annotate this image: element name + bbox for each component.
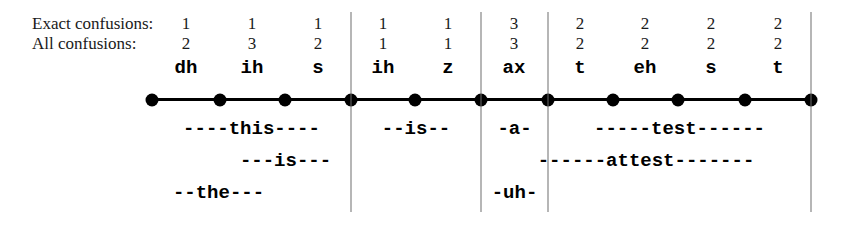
- hypothesis-span: -uh-: [481, 182, 548, 204]
- all-count: 2: [576, 34, 585, 54]
- axis-node: [739, 93, 752, 106]
- all-count: 2: [641, 34, 650, 54]
- hypothesis-row-3: --the----uh-: [0, 182, 848, 206]
- hypothesis-span: --is--: [351, 118, 481, 140]
- exact-count: 3: [510, 14, 519, 34]
- exact-count: 2: [641, 14, 650, 34]
- axis-node: [279, 93, 292, 106]
- phoneme-label: t: [574, 57, 585, 79]
- phoneme-label: z: [442, 57, 453, 79]
- axis-node: [672, 93, 685, 106]
- exact-count: 1: [182, 14, 191, 34]
- axis-node: [607, 93, 620, 106]
- phoneme-label: ih: [372, 57, 395, 79]
- axis-node: [409, 93, 422, 106]
- hypothesis-row-1: ----this------is---a------test------: [0, 118, 848, 142]
- all-count: 2: [182, 34, 191, 54]
- all-count: 2: [774, 34, 783, 54]
- phoneme-label: ax: [503, 57, 526, 79]
- exact-count: 2: [707, 14, 716, 34]
- hypothesis-span: ---is---: [220, 150, 351, 172]
- hypothesis-span: -a-: [481, 118, 548, 140]
- all-confusions-label: All confusions:: [32, 34, 136, 54]
- exact-count: 1: [379, 14, 388, 34]
- axis-node: [214, 93, 227, 106]
- exact-count: 2: [774, 14, 783, 34]
- all-count: 2: [314, 34, 323, 54]
- phoneme-label: dh: [175, 57, 198, 79]
- exact-count: 1: [248, 14, 257, 34]
- hypothesis-row-2: ---is---------attest-------: [0, 150, 848, 174]
- hypothesis-span: -----test------: [548, 118, 811, 140]
- all-count: 1: [379, 34, 388, 54]
- exact-count: 1: [314, 14, 323, 34]
- hypothesis-span: ----this----: [152, 118, 351, 140]
- phoneme-alignment-figure: Exact confusions: All confusions: 111113…: [0, 0, 848, 232]
- exact-count: 2: [576, 14, 585, 34]
- phoneme-label: eh: [634, 57, 657, 79]
- all-count: 3: [248, 34, 257, 54]
- exact-confusions-label: Exact confusions:: [32, 14, 153, 34]
- phoneme-label: s: [705, 57, 716, 79]
- phoneme-label: ih: [241, 57, 264, 79]
- all-count: 3: [510, 34, 519, 54]
- axis-node: [146, 93, 159, 106]
- hypothesis-span: ------attest-------: [481, 150, 811, 172]
- all-count: 2: [707, 34, 716, 54]
- phoneme-label: t: [772, 57, 783, 79]
- phoneme-label: s: [312, 57, 323, 79]
- exact-count: 1: [444, 14, 453, 34]
- all-count: 1: [444, 34, 453, 54]
- hypothesis-span: --the---: [152, 182, 285, 204]
